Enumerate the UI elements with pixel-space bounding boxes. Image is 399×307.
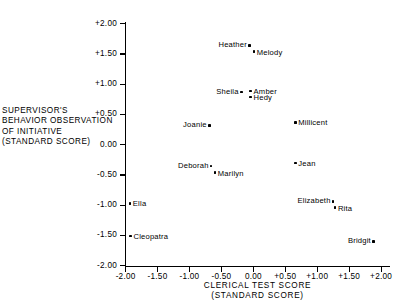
y-tick-label: +1.50: [73, 49, 117, 58]
x-axis-title: CLERICAL TEST SCORE (STANDARD SCORE): [125, 281, 390, 302]
x-tick-mark: [381, 267, 382, 272]
x-axis-title-line-2: (STANDARD SCORE): [125, 291, 390, 301]
data-point: [208, 124, 211, 127]
y-tick-mark: [120, 114, 125, 115]
data-point: [129, 202, 132, 205]
y-tick-mark: [120, 174, 125, 175]
data-point-label: Bridgit: [348, 236, 371, 245]
data-point-label: Jean: [298, 159, 315, 168]
data-point-label: Deborah: [178, 161, 209, 170]
data-point: [214, 171, 217, 174]
y-axis-title-line-3: OF INITIATIVE: [2, 127, 113, 137]
data-point: [249, 96, 252, 99]
data-point: [372, 240, 375, 243]
y-axis-line: [125, 22, 126, 267]
data-point: [334, 206, 337, 209]
data-point-label: Hedy: [254, 93, 273, 102]
data-point: [332, 200, 335, 203]
data-point-label: Ella: [133, 199, 146, 208]
data-point: [249, 90, 252, 93]
x-tick-mark: [349, 267, 350, 272]
x-tick-mark: [285, 267, 286, 272]
x-tick-label: +2.00: [358, 272, 399, 281]
data-point: [248, 44, 251, 47]
data-point: [253, 50, 256, 53]
y-tick-mark: [120, 205, 125, 206]
y-tick-label: +1.00: [73, 79, 117, 88]
data-point: [129, 235, 132, 238]
data-point: [210, 165, 213, 168]
data-point-label: Marilyn: [218, 169, 244, 178]
data-point-label: Cleopatra: [134, 232, 169, 241]
data-point-label: Elizabeth: [298, 196, 331, 205]
x-axis-line: [125, 266, 390, 267]
y-tick-label: -0.50: [73, 170, 117, 179]
y-tick-label: -1.00: [73, 200, 117, 209]
y-tick-mark: [120, 53, 125, 54]
data-point: [294, 162, 297, 165]
y-tick-mark: [120, 144, 125, 145]
y-axis-title-line-4: (STANDARD SCORE): [2, 137, 113, 147]
y-tick-mark: [120, 23, 125, 24]
y-axis-title: SUPERVISOR'S BEHAVIOR OBSERVATION OF INI…: [2, 106, 113, 147]
x-tick-mark: [317, 267, 318, 272]
x-tick-mark: [125, 267, 126, 272]
x-tick-mark: [157, 267, 158, 272]
y-tick-mark: [120, 235, 125, 236]
data-point-label: Sheila: [216, 87, 238, 96]
x-axis-title-line-1: CLERICAL TEST SCORE: [125, 281, 390, 291]
x-tick-mark: [253, 267, 254, 272]
scatter-plot-figure: -2.00-1.50-1.00-0.500.00+0.50+1.00+1.50+…: [0, 0, 399, 307]
data-point: [294, 121, 297, 124]
y-tick-label: -1.50: [73, 230, 117, 239]
data-point: [240, 91, 243, 94]
y-axis-title-line-1: SUPERVISOR'S: [2, 106, 113, 116]
data-point-label: Rita: [338, 204, 352, 213]
y-tick-label: +2.00: [73, 19, 117, 28]
y-tick-mark: [120, 84, 125, 85]
x-tick-mark: [189, 267, 190, 272]
x-tick-mark: [221, 267, 222, 272]
data-point-label: Millicent: [298, 118, 327, 127]
data-point-label: Melody: [257, 48, 283, 57]
data-point-label: Heather: [219, 40, 247, 49]
data-point-label: Joanie: [183, 120, 207, 129]
y-axis-title-line-2: BEHAVIOR OBSERVATION: [2, 116, 113, 126]
y-tick-label: -2.00: [73, 261, 117, 270]
